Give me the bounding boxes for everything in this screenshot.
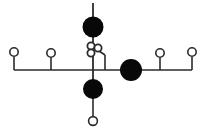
- open-node-cluster-lower[interactable]: [87, 49, 94, 56]
- open-node-cluster-right[interactable]: [94, 44, 101, 51]
- open-node-bottom[interactable]: [89, 117, 98, 126]
- nodes-layer: [10, 17, 196, 126]
- filled-node-right[interactable]: [120, 59, 142, 81]
- diagram-svg: [0, 0, 207, 136]
- open-node-left-outer[interactable]: [10, 48, 18, 56]
- open-node-left-inner[interactable]: [47, 49, 55, 57]
- diagram-canvas: [0, 0, 207, 136]
- filled-node-top[interactable]: [83, 17, 104, 38]
- open-node-right-outer[interactable]: [188, 48, 196, 56]
- filled-node-bottom[interactable]: [83, 79, 103, 99]
- edges-layer: [14, 3, 192, 117]
- open-node-right-inner[interactable]: [156, 49, 164, 57]
